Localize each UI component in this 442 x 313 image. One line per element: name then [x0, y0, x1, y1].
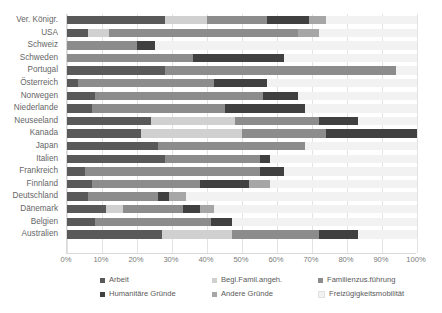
- bar-segment[interactable]: [211, 218, 232, 226]
- bar-segment[interactable]: [67, 155, 165, 163]
- bar-segment[interactable]: [67, 79, 78, 87]
- stacked-bar[interactable]: [67, 192, 417, 200]
- bar-segment[interactable]: [242, 129, 326, 137]
- bar-segment[interactable]: [309, 16, 327, 24]
- bar-segment[interactable]: [232, 230, 320, 238]
- stacked-bar[interactable]: [67, 29, 417, 37]
- bar-segment[interactable]: [67, 205, 106, 213]
- bar-segment[interactable]: [396, 66, 417, 74]
- bar-segment[interactable]: [270, 180, 417, 188]
- bar-segment[interactable]: [267, 79, 418, 87]
- bar-segment[interactable]: [92, 104, 225, 112]
- bar-segment[interactable]: [67, 142, 158, 150]
- bar-segment[interactable]: [326, 129, 417, 137]
- stacked-bar[interactable]: [67, 16, 417, 24]
- bar-segment[interactable]: [267, 16, 309, 24]
- bar-segment[interactable]: [67, 54, 193, 62]
- bar-segment[interactable]: [67, 66, 165, 74]
- bar-segment[interactable]: [298, 92, 417, 100]
- bar-segment[interactable]: [169, 192, 187, 200]
- bar-segment[interactable]: [183, 205, 201, 213]
- stacked-bar[interactable]: [67, 180, 417, 188]
- bar-segment[interactable]: [260, 167, 285, 175]
- bar-segment[interactable]: [78, 79, 215, 87]
- bar-segment[interactable]: [158, 192, 169, 200]
- bar-segment[interactable]: [95, 92, 263, 100]
- bar-segment[interactable]: [298, 29, 319, 37]
- bar-segment[interactable]: [165, 155, 260, 163]
- bar-segment[interactable]: [123, 205, 183, 213]
- legend-item[interactable]: Familienzus.führung: [318, 276, 420, 284]
- bar-segment[interactable]: [214, 205, 417, 213]
- bar-segment[interactable]: [235, 117, 319, 125]
- legend-item[interactable]: Humanitäre Gründe: [100, 290, 212, 298]
- bar-segment[interactable]: [207, 16, 267, 24]
- bar-segment[interactable]: [67, 104, 92, 112]
- bar-segment[interactable]: [284, 167, 417, 175]
- bar-segment[interactable]: [319, 29, 417, 37]
- bar-segment[interactable]: [67, 41, 137, 49]
- bar-segment[interactable]: [193, 54, 284, 62]
- bar-segment[interactable]: [155, 41, 418, 49]
- bar-segment[interactable]: [263, 92, 298, 100]
- bar-segment[interactable]: [88, 192, 158, 200]
- legend-item[interactable]: Begl.Famil.angeh.: [212, 276, 318, 284]
- bar-segment[interactable]: [109, 29, 298, 37]
- bar-segment[interactable]: [214, 79, 267, 87]
- bar-segment[interactable]: [270, 155, 417, 163]
- bar-segment[interactable]: [106, 205, 124, 213]
- bar-segment[interactable]: [284, 54, 417, 62]
- bar-segment[interactable]: [200, 205, 214, 213]
- bar-segment[interactable]: [225, 104, 306, 112]
- bar-segment[interactable]: [305, 104, 417, 112]
- bar-segment[interactable]: [88, 29, 109, 37]
- bar-segment[interactable]: [319, 117, 358, 125]
- bar-segment[interactable]: [95, 218, 211, 226]
- legend-item[interactable]: Freizügigkeitsmobilität: [318, 290, 420, 298]
- bar-segment[interactable]: [67, 192, 88, 200]
- stacked-bar[interactable]: [67, 230, 417, 238]
- legend-item[interactable]: Andere Gründe: [212, 290, 318, 298]
- stacked-bar[interactable]: [67, 92, 417, 100]
- bar-segment[interactable]: [67, 92, 95, 100]
- bar-segment[interactable]: [67, 117, 151, 125]
- bar-segment[interactable]: [165, 16, 207, 24]
- bar-segment[interactable]: [326, 16, 417, 24]
- bar-segment[interactable]: [92, 180, 201, 188]
- bar-segment[interactable]: [67, 230, 162, 238]
- bar-segment[interactable]: [232, 218, 418, 226]
- bar-segment[interactable]: [249, 180, 270, 188]
- bar-segment[interactable]: [200, 180, 249, 188]
- bar-segment[interactable]: [67, 29, 88, 37]
- stacked-bar[interactable]: [67, 117, 417, 125]
- bar-segment[interactable]: [67, 167, 85, 175]
- bar-segment[interactable]: [67, 16, 165, 24]
- stacked-bar[interactable]: [67, 41, 417, 49]
- stacked-bar[interactable]: [67, 79, 417, 87]
- bar-segment[interactable]: [305, 142, 417, 150]
- bar-segment[interactable]: [260, 155, 271, 163]
- legend-item[interactable]: Arbeit: [100, 276, 212, 284]
- bar-segment[interactable]: [319, 230, 358, 238]
- stacked-bar[interactable]: [67, 104, 417, 112]
- stacked-bar[interactable]: [67, 218, 417, 226]
- stacked-bar[interactable]: [67, 142, 417, 150]
- bar-segment[interactable]: [158, 142, 305, 150]
- bar-segment[interactable]: [67, 129, 141, 137]
- bar-segment[interactable]: [358, 230, 418, 238]
- bar-segment[interactable]: [165, 66, 396, 74]
- stacked-bar[interactable]: [67, 167, 417, 175]
- stacked-bar[interactable]: [67, 54, 417, 62]
- stacked-bar[interactable]: [67, 129, 417, 137]
- bar-segment[interactable]: [67, 218, 95, 226]
- stacked-bar[interactable]: [67, 66, 417, 74]
- bar-segment[interactable]: [186, 192, 417, 200]
- bar-segment[interactable]: [85, 167, 260, 175]
- bar-segment[interactable]: [162, 230, 232, 238]
- bar-segment[interactable]: [151, 117, 235, 125]
- bar-segment[interactable]: [358, 117, 418, 125]
- stacked-bar[interactable]: [67, 155, 417, 163]
- bar-segment[interactable]: [141, 129, 243, 137]
- stacked-bar[interactable]: [67, 205, 417, 213]
- bar-segment[interactable]: [67, 180, 92, 188]
